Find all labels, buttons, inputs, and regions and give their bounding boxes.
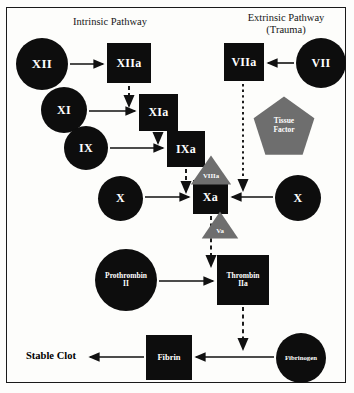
node-text-line-1: IX [79,142,93,155]
node-label-viia: VIIa [231,56,256,69]
node-vii: VII [296,38,346,88]
node-text-line-1: X [294,192,303,205]
extrinsic-pathway-header: Extrinsic Pathway (Trauma) [228,12,344,36]
extrinsic-pathway-label-line1: Extrinsic Pathway [228,12,344,24]
node-va: Va [201,211,239,239]
node-fibrinogen: Fibrinogen [276,333,326,383]
node-text-line-1: Va [201,227,239,234]
node-label-x_left: X [116,192,125,205]
node-xia: XIa [139,94,178,131]
node-thrombin: ThrombinIIa [217,255,269,305]
node-text-line-1: Fibrinogen [285,354,317,361]
node-label-fibrinogen: Fibrinogen [285,354,317,361]
node-xiia: XIIa [107,43,151,83]
node-text-line-1: Xa [203,191,218,204]
node-ix: IX [64,126,108,170]
node-text-line-1: Fibrin [157,353,180,362]
node-x-right: X [275,175,321,221]
node-text-line-2: II [105,280,147,288]
node-text-line-1: XI [57,104,71,117]
node-text-line-1: VIIa [231,56,256,69]
node-text-line-1: X [116,192,125,205]
node-fibrin: Fibrin [146,335,192,380]
node-label-xii: XII [32,57,52,71]
node-prothrombin: ProthrombinII [95,249,157,311]
node-xa: Xa [193,180,228,214]
node-label-fibrin: Fibrin [157,353,180,362]
node-text-line-1: VIIIa [190,172,232,179]
node-label-tissuefactor: TissueFactor [253,117,315,134]
coagulation-cascade-diagram: Intrinsic Pathway Extrinsic Pathway (Tra… [0,0,354,393]
extrinsic-pathway-label-line2: (Trauma) [228,24,344,36]
node-label-va: Va [201,227,239,234]
node-label-prothrombin: ProthrombinII [105,272,147,288]
intrinsic-pathway-label: Intrinsic Pathway [73,16,147,27]
node-text-line-1: IXa [176,143,196,156]
node-label-xia: XIa [148,106,168,119]
node-text-line-1: XII [32,57,52,71]
node-tissuefactor: TissueFactor [253,96,315,156]
node-label-viiia: VIIIa [190,172,232,179]
node-text-line-2: IIa [227,280,260,288]
node-viiia: VIIIa [190,155,232,185]
node-text-line-1: XIIa [116,57,141,70]
node-text-line-1: XIa [148,106,168,119]
node-xii: XII [16,38,68,90]
node-label-xi: XI [57,104,71,117]
node-label-xiia: XIIa [116,57,141,70]
node-label-x_right: X [294,192,303,205]
node-label-vii: VII [312,57,331,70]
node-text-line-2: Factor [253,126,315,135]
intrinsic-pathway-header: Intrinsic Pathway [40,16,180,28]
node-viia: VIIa [224,43,264,81]
node-label-thrombin: ThrombinIIa [227,272,260,288]
node-label-ixa: IXa [176,143,196,156]
node-text-line-1: VII [312,57,331,70]
node-x-left: X [98,176,143,221]
node-label-ix: IX [79,142,93,155]
node-label-xa: Xa [203,191,218,204]
stable-clot-label: Stable Clot [26,350,76,361]
